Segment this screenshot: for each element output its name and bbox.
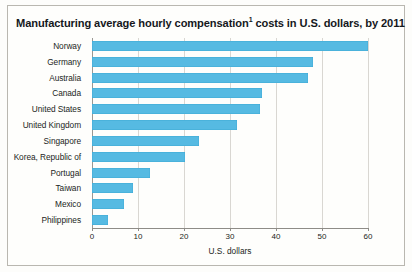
bar-philippines: [92, 215, 108, 225]
bar-row: [92, 70, 368, 86]
x-tick-label-40: 40: [272, 232, 281, 241]
bar-united-kingdom: [92, 120, 237, 130]
bar-row: [92, 54, 368, 70]
category-label-mexico: Mexico: [0, 196, 86, 212]
bar-row: [92, 212, 368, 228]
bar-united-states: [92, 104, 260, 114]
category-label-taiwan: Taiwan: [0, 180, 86, 196]
bar-portugal: [92, 168, 150, 178]
bar-australia: [92, 73, 308, 83]
x-tickmark-30: [230, 228, 231, 231]
bar-singapore: [92, 136, 199, 146]
bar-row: [92, 165, 368, 181]
x-tick-label-10: 10: [134, 232, 143, 241]
bar-mexico: [92, 199, 124, 209]
chart-title-suffix: costs in U.S. dollars, by 2011: [252, 17, 404, 29]
category-label-australia: Australia: [0, 70, 86, 86]
category-label-united-kingdom: United Kingdom: [0, 117, 86, 133]
x-tickmark-50: [322, 228, 323, 231]
x-tick-label-20: 20: [180, 232, 189, 241]
bar-canada: [92, 88, 262, 98]
x-tickmark-20: [184, 228, 185, 231]
category-axis-labels: NorwayGermanyAustraliaCanadaUnited State…: [0, 38, 86, 228]
bar-taiwan: [92, 183, 133, 193]
x-tick-label-50: 50: [318, 232, 327, 241]
x-axis-title: U.S. dollars: [92, 246, 368, 256]
chart-title: Manufacturing average hourly compensatio…: [16, 13, 400, 30]
bar-row: [92, 38, 368, 54]
x-tickmark-0: [92, 228, 93, 231]
bar-row: [92, 117, 368, 133]
bar-germany: [92, 57, 313, 67]
chart-figure: Manufacturing average hourly compensatio…: [0, 0, 412, 272]
x-axis-ticks: 0102030405060: [92, 228, 368, 244]
category-label-canada: Canada: [0, 85, 86, 101]
category-label-germany: Germany: [0, 54, 86, 70]
category-label-portugal: Portugal: [0, 165, 86, 181]
category-label-norway: Norway: [0, 38, 86, 54]
x-tick-label-0: 0: [90, 232, 94, 241]
bar-korea-republic-of: [92, 152, 185, 162]
bar-norway: [92, 41, 368, 51]
category-label-united-states: United States: [0, 101, 86, 117]
category-label-singapore: Singapore: [0, 133, 86, 149]
category-label-korea-republic-of: Korea, Republic of: [0, 149, 86, 165]
bar-row: [92, 180, 368, 196]
x-tick-label-60: 60: [364, 232, 373, 241]
plot-area: [92, 38, 368, 228]
bar-series: [92, 38, 368, 228]
bar-row: [92, 101, 368, 117]
x-tickmark-60: [368, 228, 369, 231]
x-tickmark-10: [138, 228, 139, 231]
bar-row: [92, 85, 368, 101]
category-label-philippines: Philippines: [0, 212, 86, 228]
bar-row: [92, 149, 368, 165]
x-tickmark-40: [276, 228, 277, 231]
chart-title-main: Manufacturing average hourly compensatio…: [16, 17, 249, 29]
bar-row: [92, 196, 368, 212]
x-tick-label-30: 30: [226, 232, 235, 241]
bar-row: [92, 133, 368, 149]
